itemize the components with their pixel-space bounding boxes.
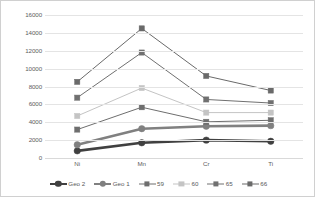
legend-item-59[interactable]: 59	[139, 181, 164, 188]
gridline	[45, 104, 303, 105]
data-point-marker	[75, 95, 80, 100]
y-axis-tick-label: 10000	[2, 66, 42, 72]
legend-label: Geo 2	[68, 181, 85, 187]
y-axis: 0200040006000800010000120001400016000	[1, 15, 42, 158]
data-point-marker	[204, 110, 209, 115]
data-point-marker	[139, 26, 144, 31]
data-point-marker	[75, 79, 80, 84]
gridline	[45, 158, 303, 159]
plot-area	[45, 15, 303, 158]
legend-marker-icon	[100, 181, 106, 187]
y-axis-tick-label: 0	[2, 155, 42, 161]
legend-label: 66	[260, 181, 267, 187]
y-axis-tick-label: 12000	[2, 48, 42, 54]
y-axis-tick-label: 2000	[2, 137, 42, 143]
y-axis-tick-label: 8000	[2, 83, 42, 89]
chart-legend: Geo 2Geo 159606566	[1, 178, 315, 190]
legend-swatch-icon	[207, 181, 224, 188]
legend-label: Geo 1	[113, 181, 130, 187]
data-point-marker	[268, 88, 273, 93]
data-point-marker	[204, 73, 209, 78]
legend-label: 60	[191, 181, 198, 187]
legend-label: 65	[226, 181, 233, 187]
legend-item-60[interactable]: 60	[173, 181, 198, 188]
gridline	[45, 33, 303, 34]
data-point-marker	[204, 97, 209, 102]
gridline	[45, 51, 303, 52]
legend-swatch-icon	[139, 181, 156, 188]
legend-item-geo-2[interactable]: Geo 2	[50, 181, 85, 188]
legend-item-65[interactable]: 65	[207, 181, 232, 188]
data-point-marker	[74, 142, 80, 148]
x-axis-tick-label: Ni	[74, 161, 80, 167]
legend-swatch-icon	[173, 181, 190, 188]
legend-marker-icon	[248, 181, 253, 186]
y-axis-tick-label: 4000	[2, 119, 42, 125]
data-point-marker	[268, 122, 274, 128]
x-axis-tick-label: Cr	[203, 161, 210, 167]
legend-label: 59	[157, 181, 164, 187]
data-point-marker	[268, 110, 273, 115]
gridline	[45, 122, 303, 123]
gridline	[45, 69, 303, 70]
legend-swatch-icon	[94, 181, 111, 188]
data-point-marker	[75, 127, 80, 132]
y-axis-tick-label: 6000	[2, 101, 42, 107]
data-point-marker	[268, 138, 274, 144]
y-axis-tick-label: 16000	[2, 12, 42, 18]
legend-swatch-icon	[242, 181, 259, 188]
data-point-marker	[74, 148, 80, 154]
gridline	[45, 87, 303, 88]
legend-item-geo-1[interactable]: Geo 1	[94, 181, 129, 188]
series-65	[75, 50, 274, 106]
series-line	[77, 53, 271, 103]
gridline	[45, 15, 303, 16]
series-line	[77, 28, 271, 90]
series-66	[75, 26, 274, 93]
y-axis-tick-label: 14000	[2, 30, 42, 36]
x-axis-tick-label: Ti	[268, 161, 273, 167]
data-point-marker	[139, 105, 144, 110]
gridline	[45, 140, 303, 141]
legend-marker-icon	[55, 181, 61, 187]
series-line	[77, 88, 271, 116]
data-point-marker	[75, 113, 80, 118]
legend-item-66[interactable]: 66	[242, 181, 267, 188]
legend-swatch-icon	[50, 181, 67, 188]
legend-marker-icon	[179, 181, 184, 186]
data-point-marker	[139, 125, 145, 131]
x-axis-tick-label: Mn	[137, 161, 146, 167]
chart-container: 0200040006000800010000120001400016000 Ni…	[0, 0, 315, 197]
series-line	[77, 140, 271, 151]
legend-marker-icon	[144, 181, 149, 186]
series-geo-1	[74, 122, 274, 148]
legend-marker-icon	[213, 181, 218, 186]
x-axis: NiMnCrTi	[45, 161, 303, 173]
